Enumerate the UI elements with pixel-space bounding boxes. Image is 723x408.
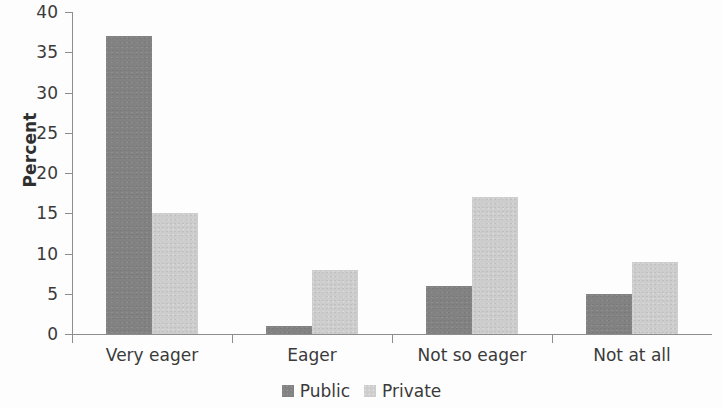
- y-axis-tick-label: 35: [18, 42, 58, 62]
- y-axis-tick: 10: [65, 254, 73, 255]
- x-axis-category-label: Eager: [287, 345, 336, 365]
- legend-swatch-icon: [364, 385, 376, 397]
- x-axis-tick: [392, 334, 393, 343]
- bar-private-very-eager: [152, 213, 198, 334]
- y-axis-tick: 20: [65, 173, 73, 174]
- bar-private-not-at-all: [632, 262, 678, 334]
- y-axis-tick-label: 25: [18, 123, 58, 143]
- y-axis-tick: 25: [65, 133, 73, 134]
- legend-label: Public: [300, 381, 350, 401]
- y-axis-tick: 15: [65, 213, 73, 214]
- y-axis-tick-label: 30: [18, 83, 58, 103]
- bar-public-not-so-eager: [426, 286, 472, 334]
- bar-private-eager: [312, 270, 358, 334]
- bar-private-not-so-eager: [472, 197, 518, 334]
- y-axis-tick: 40: [65, 12, 73, 13]
- legend-label: Private: [382, 381, 441, 401]
- plot-area: 0510152025303540: [72, 12, 712, 334]
- chart-legend: PublicPrivate: [0, 381, 723, 401]
- y-axis-tick-label: 40: [18, 2, 58, 22]
- legend-item-private: Private: [364, 381, 441, 401]
- y-axis-tick-label: 5: [18, 284, 58, 304]
- x-axis-tick: [552, 334, 553, 343]
- origin-tick: [72, 325, 73, 334]
- bar-public-eager: [266, 326, 312, 334]
- bar-public-very-eager: [106, 36, 152, 334]
- y-axis-tick-label: 15: [18, 203, 58, 223]
- legend-item-public: Public: [282, 381, 350, 401]
- legend-swatch-icon: [282, 385, 294, 397]
- y-axis-title: Percent: [20, 90, 40, 210]
- x-axis-category-label: Not at all: [593, 345, 671, 365]
- y-axis-tick: 35: [65, 52, 73, 53]
- y-axis-tick: 30: [65, 93, 73, 94]
- y-axis-tick-label: 0: [18, 324, 58, 344]
- x-axis-category-label: Not so eager: [418, 345, 527, 365]
- x-axis-tick: [72, 334, 73, 343]
- y-axis-tick-label: 10: [18, 244, 58, 264]
- bar-chart: Percent 0510152025303540 Very eagerEager…: [0, 0, 723, 408]
- bar-public-not-at-all: [586, 294, 632, 334]
- x-axis-tick: [232, 334, 233, 343]
- y-axis-tick-label: 20: [18, 163, 58, 183]
- x-axis-category-label: Very eager: [106, 345, 198, 365]
- y-axis-tick: 5: [65, 294, 73, 295]
